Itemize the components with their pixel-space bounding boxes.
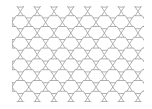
hexagon-grid: [12, 6, 144, 102]
figure-canvas: [0, 0, 152, 109]
hexagon-cell-group: [12, 6, 144, 102]
